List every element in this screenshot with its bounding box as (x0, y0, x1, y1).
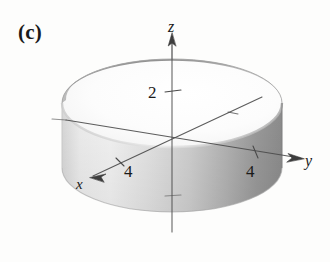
x-axis-tick-label: 4 (124, 163, 133, 180)
z-axis-label: z (168, 19, 174, 35)
z-axis-tick-label: 2 (148, 84, 157, 101)
figure-container: (c) z y x 2 4 4 (0, 0, 330, 262)
panel-label: (c) (18, 22, 42, 43)
x-axis-label: x (76, 177, 83, 192)
y-axis-arrowhead (287, 154, 304, 163)
y-axis-label: y (305, 153, 312, 169)
y-axis-tick-label: 4 (246, 163, 255, 180)
cylinder-figure-svg (0, 0, 330, 262)
